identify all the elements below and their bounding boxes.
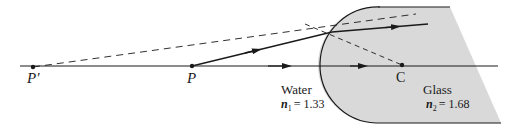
label-c: C (396, 70, 405, 85)
label-glass: Glass (423, 82, 452, 97)
label-p-prime: P′ (26, 70, 40, 86)
point-c (400, 63, 404, 67)
water-index-value: = 1.33 (294, 97, 325, 111)
glass-index-value: = 1.68 (439, 97, 470, 111)
refraction-diagram: P′ P C Water n1= 1.33 Glass n2= 1.68 (0, 0, 516, 133)
incident-ray (192, 32, 332, 66)
label-water: Water (281, 82, 312, 97)
point-p-prime (31, 65, 35, 69)
glass-index-subscript: 2 (433, 104, 437, 113)
glass-block (318, 7, 501, 123)
label-glass-index: n2= 1.68 (426, 97, 469, 113)
incident-ray-arrow (245, 50, 258, 53)
label-p: P (186, 70, 196, 86)
label-water-index: n1= 1.33 (281, 97, 324, 113)
water-index-subscript: 1 (288, 104, 292, 113)
point-p (190, 64, 194, 68)
